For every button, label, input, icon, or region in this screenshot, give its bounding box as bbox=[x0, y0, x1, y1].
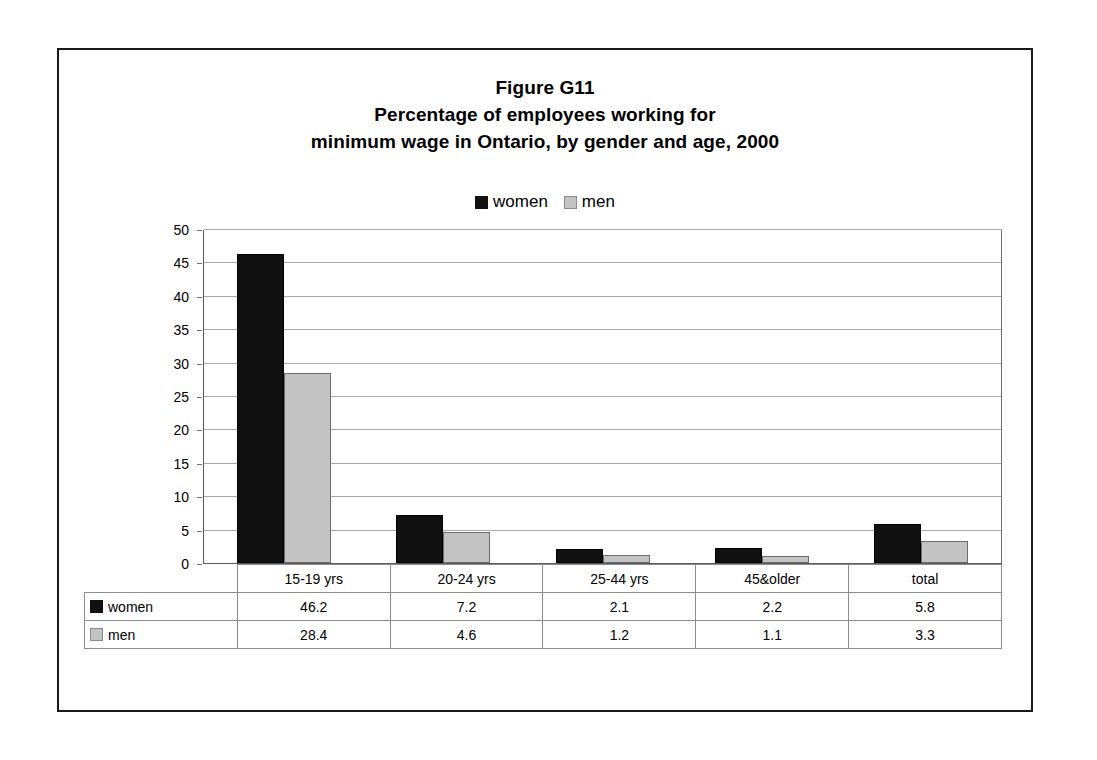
table-row: men28.44.61.21.13.3 bbox=[85, 621, 1002, 649]
bar-women-45-older bbox=[715, 548, 762, 563]
chart-title-block: Figure G11 Percentage of employees worki… bbox=[59, 74, 1031, 155]
plot-right-border bbox=[1001, 230, 1002, 563]
y-axis-tick-label: 45 bbox=[173, 256, 189, 270]
y-axis-tick-label: 15 bbox=[173, 457, 189, 471]
plot-wrapper: 50454035302520151050 bbox=[157, 230, 1002, 564]
table-row-header: men bbox=[85, 621, 238, 649]
chart-title-line-1: Figure G11 bbox=[59, 74, 1031, 101]
legend-label-women: women bbox=[493, 192, 548, 212]
table-header-row: 15-19 yrs20-24 yrs25-44 yrs45&oldertotal bbox=[85, 565, 1002, 593]
bar-group bbox=[204, 230, 363, 563]
table-cell: 2.2 bbox=[696, 593, 849, 621]
y-axis-tick-label: 35 bbox=[173, 323, 189, 337]
bar-women-total bbox=[874, 524, 921, 563]
bar-group bbox=[682, 230, 841, 563]
y-axis-tick-mark bbox=[197, 531, 202, 532]
table-column-header: 20-24 yrs bbox=[390, 565, 543, 593]
plot-area bbox=[203, 230, 1002, 564]
bar-men-45-older bbox=[762, 556, 809, 563]
bars-layer bbox=[204, 230, 1001, 563]
table-row-label: women bbox=[108, 599, 153, 615]
table-cell: 28.4 bbox=[237, 621, 390, 649]
y-axis-tick-mark bbox=[197, 464, 202, 465]
table-cell: 3.3 bbox=[849, 621, 1002, 649]
legend-swatch-men-icon bbox=[564, 196, 577, 209]
y-axis-tick-label: 25 bbox=[173, 390, 189, 404]
table-swatch-men-icon bbox=[90, 628, 103, 641]
table-cell: 2.1 bbox=[543, 593, 696, 621]
figure-frame: Figure G11 Percentage of employees worki… bbox=[57, 48, 1033, 712]
table-row: women46.27.22.12.25.8 bbox=[85, 593, 1002, 621]
table-cell: 7.2 bbox=[390, 593, 543, 621]
table-row-label: men bbox=[108, 627, 135, 643]
table-column-header: 45&older bbox=[696, 565, 849, 593]
legend-label-men: men bbox=[582, 192, 615, 212]
y-axis-tick-label: 10 bbox=[173, 490, 189, 504]
y-axis-tick-label: 5 bbox=[181, 524, 189, 538]
chart-title-line-3: minimum wage in Ontario, by gender and a… bbox=[59, 128, 1031, 155]
legend-swatch-women-icon bbox=[475, 196, 488, 209]
table-cell: 5.8 bbox=[849, 593, 1002, 621]
y-axis-tick-mark bbox=[197, 263, 202, 264]
bar-group bbox=[842, 230, 1001, 563]
bar-men-20-24-yrs bbox=[443, 532, 490, 563]
chart-title-line-2: Percentage of employees working for bbox=[59, 101, 1031, 128]
table-cell: 1.1 bbox=[696, 621, 849, 649]
y-axis-tick-mark bbox=[197, 397, 202, 398]
table-column-header: 25-44 yrs bbox=[543, 565, 696, 593]
y-axis-tick-mark bbox=[197, 364, 202, 365]
table-column-header: 15-19 yrs bbox=[237, 565, 390, 593]
bar-women-25-44-yrs bbox=[556, 549, 603, 563]
y-axis-tick-label: 40 bbox=[173, 290, 189, 304]
y-axis-tick-label: 20 bbox=[173, 423, 189, 437]
y-axis-tick-label: 30 bbox=[173, 357, 189, 371]
y-axis-tick-mark bbox=[197, 430, 202, 431]
data-table-body: 15-19 yrs20-24 yrs25-44 yrs45&oldertotal… bbox=[85, 565, 1002, 649]
bar-group bbox=[523, 230, 682, 563]
legend-entry-men: men bbox=[564, 192, 615, 212]
y-axis-tick-mark bbox=[197, 497, 202, 498]
y-axis-tick-mark bbox=[197, 330, 202, 331]
bar-men-15-19-yrs bbox=[284, 373, 331, 563]
y-axis-tick-label: 50 bbox=[173, 223, 189, 237]
table-cell: 1.2 bbox=[543, 621, 696, 649]
table-swatch-women-icon bbox=[90, 600, 103, 613]
data-table: 15-19 yrs20-24 yrs25-44 yrs45&oldertotal… bbox=[84, 564, 1002, 649]
bar-men-25-44-yrs bbox=[603, 555, 650, 563]
y-axis-tick-mark bbox=[197, 297, 202, 298]
bar-women-15-19-yrs bbox=[237, 254, 284, 563]
table-corner-cell bbox=[85, 565, 238, 593]
table-column-header: total bbox=[849, 565, 1002, 593]
y-axis-tick-mark bbox=[197, 230, 202, 231]
table-row-header: women bbox=[85, 593, 238, 621]
bar-women-20-24-yrs bbox=[396, 515, 443, 563]
bar-group bbox=[363, 230, 522, 563]
bar-men-total bbox=[921, 541, 968, 563]
table-cell: 46.2 bbox=[237, 593, 390, 621]
table-cell: 4.6 bbox=[390, 621, 543, 649]
y-axis-labels: 50454035302520151050 bbox=[157, 230, 197, 564]
chart-legend: women men bbox=[59, 192, 1031, 212]
legend-entry-women: women bbox=[475, 192, 548, 212]
